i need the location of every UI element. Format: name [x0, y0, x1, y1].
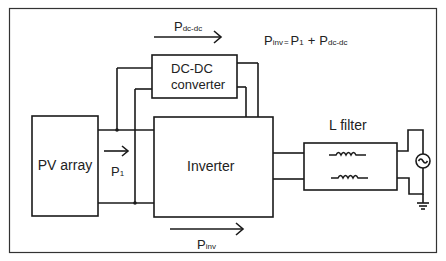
junction-dot	[133, 201, 137, 205]
p-inv-main: P	[197, 237, 206, 252]
p-dcdc-main: P	[174, 19, 183, 34]
junction-dot	[115, 128, 119, 132]
pv-array-block: PV array	[32, 116, 98, 216]
p-dcdc-sub: dc-dc	[183, 24, 203, 33]
pv-system-diagram: PV array DC-DC converter Inverter L fil	[0, 0, 446, 261]
inverter-block: Inverter	[154, 117, 273, 217]
p1-main: P	[111, 164, 120, 179]
l-filter-label: L filter	[329, 117, 367, 133]
p1-sub: 1	[120, 169, 125, 178]
dcdc-converter-block: DC-DC converter	[152, 55, 237, 98]
p-inv-sub: inv	[206, 242, 216, 251]
inverter-label: Inverter	[187, 158, 235, 174]
dcdc-label-line2: converter	[171, 77, 226, 92]
pv-array-label: PV array	[38, 157, 92, 173]
dcdc-label-line1: DC-DC	[171, 61, 213, 76]
